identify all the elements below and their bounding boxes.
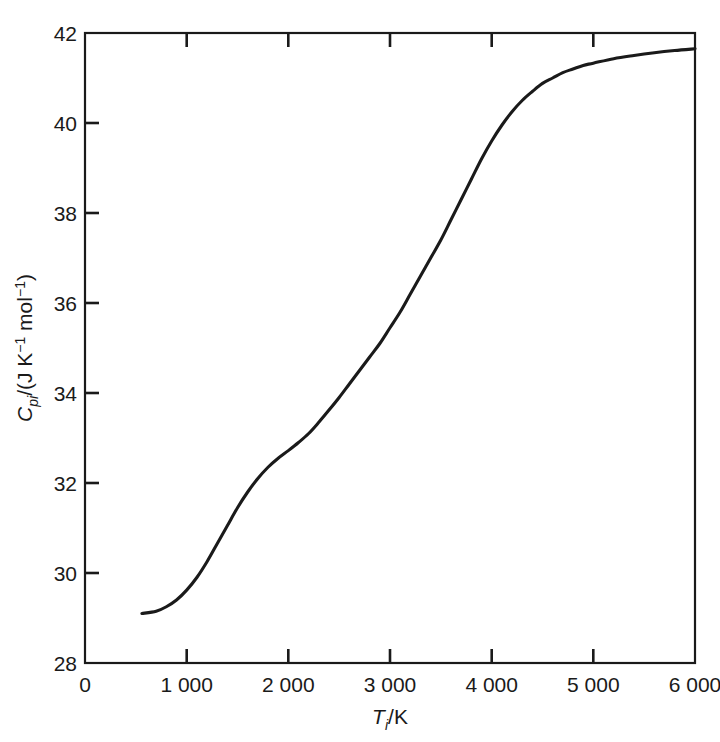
y-tick-label: 42 bbox=[54, 22, 77, 45]
y-tick-labels: 42 40 38 36 34 32 30 28 bbox=[54, 22, 78, 675]
x-tick-label: 3 000 bbox=[364, 673, 417, 696]
y-tick-label: 40 bbox=[54, 112, 77, 135]
x-tick-labels: 0 1 000 2 000 3 000 4 000 5 000 6 000 bbox=[79, 673, 720, 696]
y-axis-title: Cpi/(J K−1 mol−1) bbox=[12, 274, 41, 422]
x-tick-label: 1 000 bbox=[160, 673, 213, 696]
x-axis-title: Ti/K bbox=[372, 705, 408, 733]
chart-figure: 42 40 38 36 34 32 30 28 0 1 000 2 000 3 … bbox=[0, 0, 720, 742]
y-axis-unit-open: /(J K bbox=[13, 353, 36, 396]
y-tick-label: 38 bbox=[54, 202, 77, 225]
y-axis-unit-close: ) bbox=[13, 274, 36, 281]
x-axis-unit: /K bbox=[388, 705, 408, 728]
y-tick-label: 28 bbox=[54, 652, 77, 675]
x-tick-label: 4 000 bbox=[465, 673, 518, 696]
y-axis-unit-mid: mol bbox=[13, 297, 36, 337]
y-axis-exponent-1: −1 bbox=[12, 337, 28, 353]
plot-frame bbox=[85, 33, 695, 663]
svg-text:Cpi/(J K−1 mol−1): Cpi/(J K−1 mol−1) bbox=[12, 274, 41, 422]
y-axis-symbol-subscript: pi bbox=[25, 395, 41, 408]
x-tick-label: 2 000 bbox=[262, 673, 315, 696]
x-tick-label: 6 000 bbox=[669, 673, 720, 696]
y-axis-exponent-2: −1 bbox=[12, 281, 28, 297]
y-tick-label: 32 bbox=[54, 472, 77, 495]
y-tick-label: 30 bbox=[54, 562, 77, 585]
y-tick-label: 36 bbox=[54, 292, 77, 315]
y-tick-label: 34 bbox=[54, 382, 78, 405]
x-tick-label: 5 000 bbox=[567, 673, 620, 696]
x-tick-label: 0 bbox=[79, 673, 91, 696]
svg-text:Ti/K: Ti/K bbox=[372, 705, 408, 733]
heat-capacity-line-chart: 42 40 38 36 34 32 30 28 0 1 000 2 000 3 … bbox=[0, 0, 720, 742]
y-axis-symbol: C bbox=[13, 406, 36, 422]
